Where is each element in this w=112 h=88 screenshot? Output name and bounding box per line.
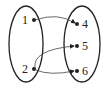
range-points: 4 5 6 xyxy=(75,17,88,78)
point-5 xyxy=(75,44,79,48)
point-1 xyxy=(32,18,36,22)
point-2 xyxy=(32,67,36,71)
domain-points: 1 2 xyxy=(22,13,36,76)
mapping-diagram: 1 2 4 5 6 xyxy=(0,0,112,88)
label-2: 2 xyxy=(22,62,28,76)
label-4: 4 xyxy=(82,17,88,31)
point-6 xyxy=(75,69,79,73)
label-6: 6 xyxy=(82,64,88,78)
arrow-2-to-6 xyxy=(36,70,74,73)
point-4 xyxy=(75,22,79,26)
label-5: 5 xyxy=(82,39,88,53)
label-1: 1 xyxy=(22,13,28,27)
